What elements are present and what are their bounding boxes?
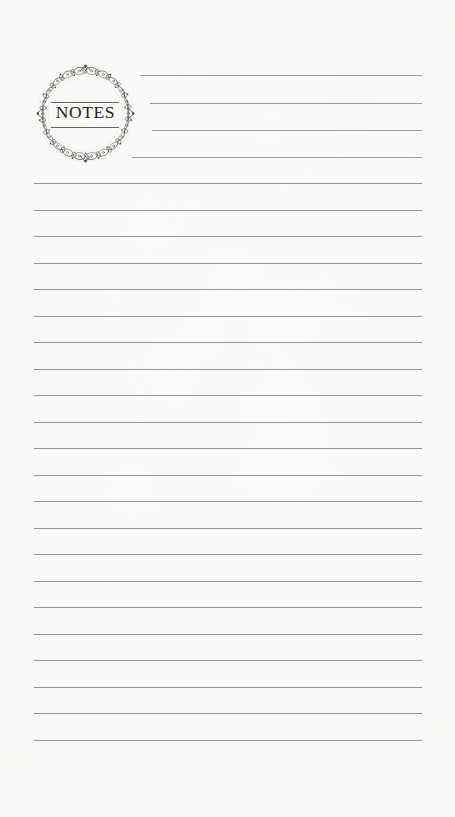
body-rule bbox=[34, 660, 422, 661]
body-rule bbox=[34, 369, 422, 370]
page-title: NOTES bbox=[33, 100, 138, 124]
body-rule bbox=[34, 713, 422, 714]
body-rule bbox=[34, 236, 422, 237]
body-rule bbox=[34, 422, 422, 423]
body-rule bbox=[34, 501, 422, 502]
body-rule bbox=[34, 289, 422, 290]
body-rule bbox=[34, 634, 422, 635]
body-rule bbox=[34, 342, 422, 343]
header-rule bbox=[140, 75, 422, 76]
header-rule bbox=[152, 130, 422, 131]
body-rule bbox=[34, 607, 422, 608]
body-rule bbox=[34, 554, 422, 555]
body-rule bbox=[34, 263, 422, 264]
header-rule bbox=[150, 103, 422, 104]
header-rule bbox=[132, 157, 422, 158]
body-rule bbox=[34, 687, 422, 688]
body-rule bbox=[34, 448, 422, 449]
body-rule bbox=[34, 475, 422, 476]
notes-page: NOTES bbox=[0, 0, 455, 817]
body-rule bbox=[34, 581, 422, 582]
body-rule bbox=[34, 316, 422, 317]
body-rule bbox=[34, 210, 422, 211]
body-rule bbox=[34, 395, 422, 396]
body-rule bbox=[34, 528, 422, 529]
page-title-text: NOTES bbox=[54, 100, 117, 124]
notes-label-rule-bottom bbox=[51, 127, 119, 128]
body-rule bbox=[34, 183, 422, 184]
body-rule bbox=[34, 740, 422, 741]
